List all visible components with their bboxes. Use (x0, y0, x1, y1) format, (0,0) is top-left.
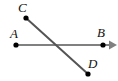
point-marker-B (100, 42, 105, 47)
point-marker-C (23, 15, 28, 20)
point-label-C: C (18, 1, 27, 14)
geometry-figure: A B C D (0, 0, 118, 81)
point-marker-A (13, 42, 18, 47)
point-label-A: A (10, 27, 18, 40)
point-label-B: B (97, 26, 105, 39)
point-marker-D (85, 71, 90, 76)
arrowhead-B-icon (109, 41, 117, 50)
point-label-D: D (88, 57, 97, 70)
